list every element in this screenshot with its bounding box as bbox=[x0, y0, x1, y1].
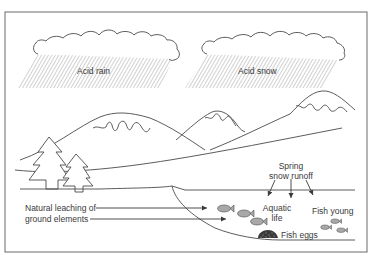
acid-snow-label: Acid snow bbox=[238, 66, 277, 76]
acid-rain-label: Acid rain bbox=[77, 66, 110, 76]
aquatic-label-line2: life bbox=[257, 213, 297, 223]
leaching-arrows bbox=[90, 208, 226, 219]
fish-icon bbox=[238, 210, 255, 217]
runoff-arrows bbox=[268, 179, 313, 198]
acid-rain-diagram: Acid rain Acid snow Spring snow runoff N… bbox=[0, 0, 375, 257]
leaching-label-line2: ground elements bbox=[25, 214, 88, 224]
fish-young-icon bbox=[321, 225, 332, 229]
trees bbox=[29, 137, 93, 192]
tree-small bbox=[63, 154, 93, 192]
mountain-middle bbox=[176, 111, 245, 140]
snowcap-middle bbox=[205, 114, 236, 126]
snowcap-left bbox=[93, 121, 150, 132]
young-fish bbox=[321, 219, 348, 232]
acid-snow-cloud bbox=[185, 31, 345, 88]
fish-young-icon bbox=[337, 228, 348, 232]
tree-large bbox=[29, 137, 70, 189]
aquatic-label-line1: Aquatic bbox=[257, 203, 297, 213]
snowcap-right bbox=[296, 104, 347, 112]
fish-young-icon bbox=[331, 219, 342, 223]
mountain-right bbox=[210, 91, 355, 150]
fish-eggs-cluster bbox=[258, 230, 278, 238]
fish-young-label: Fish young bbox=[312, 206, 354, 216]
spring-label-line2: snow runoff bbox=[256, 171, 326, 181]
runoff-arrow-1 bbox=[268, 180, 275, 196]
runoff-arrow-3 bbox=[306, 180, 313, 195]
leaching-label-line1: Natural leaching of bbox=[25, 203, 96, 213]
fish-icon bbox=[218, 205, 235, 212]
mountains bbox=[15, 91, 355, 172]
spring-label-line1: Spring bbox=[266, 161, 316, 171]
fish-eggs-label: Fish eggs bbox=[281, 230, 318, 240]
acid-rain-cloud bbox=[17, 30, 179, 88]
lake-surface bbox=[172, 186, 355, 190]
ground-line bbox=[20, 186, 172, 189]
